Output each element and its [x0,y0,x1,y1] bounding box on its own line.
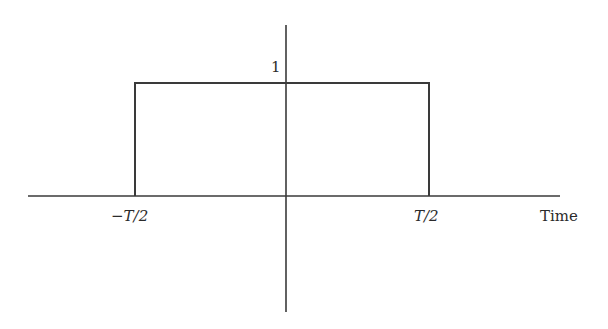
neg-half-period-label: −T/2 [111,209,148,224]
rectangular-pulse [135,83,429,196]
amplitude-label: 1 [271,60,281,75]
x-axis-label: Time [540,209,578,224]
diagram-graphics [0,0,608,329]
neg-half-period-text: −T/2 [111,207,148,225]
pos-half-period-label: T/2 [414,209,439,224]
pulse-diagram: 1 −T/2 T/2 Time [0,0,608,329]
